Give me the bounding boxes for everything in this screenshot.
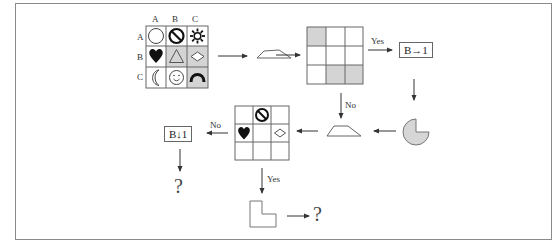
prohibition-sign-icon-2 [256, 109, 268, 121]
question-mark-2: ? [313, 203, 322, 226]
crescent-moon-icon [153, 70, 159, 86]
heart-filled-icon [149, 49, 163, 63]
trapezoid-icon [257, 50, 291, 58]
trapezoid-icon-2 [327, 126, 361, 136]
yes-label-2: Yes [267, 174, 280, 184]
question-mark-1: ? [174, 175, 183, 198]
pattern-grid [307, 27, 363, 84]
sun-gear-icon [190, 29, 205, 44]
pacman-icon [403, 119, 429, 145]
circle-outline-icon [149, 29, 164, 44]
prohibition-sign-icon [170, 29, 184, 43]
no-label-2: No [210, 120, 221, 130]
l-shape-icon [250, 201, 276, 227]
diamond-outline-icon-2 [275, 129, 286, 137]
heart-filled-icon-2 [238, 127, 250, 140]
no-label-1: No [345, 100, 356, 110]
result-box-b-right-1: B→1 [399, 42, 433, 58]
smiley-face-icon [170, 71, 184, 85]
yes-label-1: Yes [371, 36, 384, 46]
result-box-b-down-1: B↓1 [164, 126, 192, 142]
diagram-canvas [0, 0, 560, 245]
